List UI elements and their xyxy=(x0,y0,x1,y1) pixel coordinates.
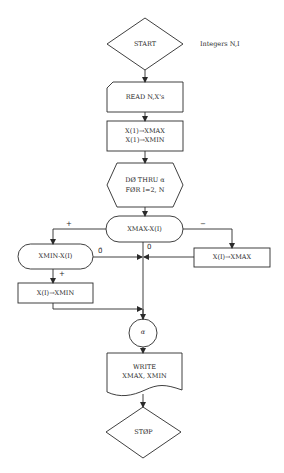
loop-label-line1: DØ THRU α xyxy=(107,176,183,185)
edge-label-min-notzero: 0̄ xyxy=(98,247,102,255)
alpha-connector-label: α xyxy=(129,328,157,337)
edge-label-max-zero: 0 xyxy=(147,243,151,251)
init-label-line2: X(1)→XMIN xyxy=(107,136,183,145)
read-label: READ N,X's xyxy=(107,93,183,102)
init-label-line1: X(1)→XMAX xyxy=(107,127,183,136)
start-label: START xyxy=(107,40,183,49)
set-max-label: X(I)→XMAX xyxy=(194,253,270,262)
loop-preparation-shape xyxy=(107,163,183,207)
write-label-line2: XMAX, XMIN xyxy=(107,372,182,381)
set-min-label: X(I)→XMIN xyxy=(18,289,93,298)
edge-label-max-minus: − xyxy=(200,220,206,228)
flowchart-canvas xyxy=(0,0,284,473)
edge-label-min-plus: + xyxy=(59,270,65,278)
integers-annotation: Integers N,I xyxy=(200,40,240,48)
compare-min-label: XMIN-X(I) xyxy=(18,252,93,261)
compare-max-label: XMAX-X(I) xyxy=(106,225,183,234)
stop-label: STØP xyxy=(106,428,181,437)
edge-label-max-plus: + xyxy=(66,220,72,228)
write-label-line1: WRITE xyxy=(107,363,182,372)
loop-label-line2: FØR I=2, N xyxy=(107,186,183,195)
